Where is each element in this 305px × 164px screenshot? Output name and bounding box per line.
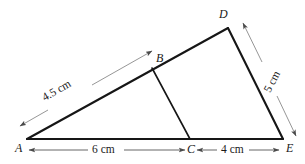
vertex-label-d: D xyxy=(219,8,228,20)
measurement-label-ce: 4 cm xyxy=(219,144,246,156)
segment-bc xyxy=(152,68,190,139)
dimension-de-line-bottom xyxy=(277,96,296,136)
vertex-label-a: A xyxy=(15,142,22,154)
vertex-label-c: C xyxy=(187,143,195,155)
dimension-ab-line-right xyxy=(92,51,152,85)
measurement-label-ac: 6 cm xyxy=(90,144,117,156)
vertex-label-e: E xyxy=(286,142,293,154)
dimension-de-line-top xyxy=(243,23,262,62)
geometry-canvas xyxy=(0,0,305,164)
dimension-ab-line-left xyxy=(20,110,48,126)
geometry-diagram: A B C D E 4.5 cm 5 cm 6 cm 4 cm xyxy=(0,0,305,164)
dimension-ab xyxy=(20,51,152,126)
vertex-label-b: B xyxy=(156,52,163,64)
